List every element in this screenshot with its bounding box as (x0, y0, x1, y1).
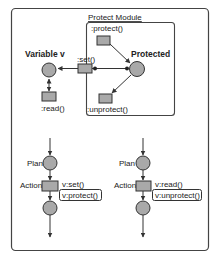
plan-label-left: Plan (27, 159, 43, 168)
variable-place (42, 63, 56, 77)
call-protect-label: v:protect() (62, 191, 98, 200)
read-transition (42, 92, 56, 101)
plan-place-left (43, 156, 57, 170)
protected-place (130, 62, 145, 77)
flow-right: Plan Action v:read() v:unprotect() (114, 138, 202, 237)
arc-end-dot-left (93, 67, 97, 71)
result-place-right (136, 201, 150, 215)
read-label: :read() (41, 104, 65, 113)
call-set-label: v:set() (62, 180, 85, 189)
diagram-canvas: Protect Module Variable v :read() :set()… (0, 0, 218, 261)
plan-place-right (136, 156, 150, 170)
protected-to-unprotect-arc (112, 75, 131, 93)
call-read-label: v:read() (155, 180, 183, 189)
action-transition-left (42, 181, 58, 191)
protect-to-protected-arc (110, 44, 130, 63)
protect-transition (97, 36, 110, 45)
variable-label: Variable v (25, 49, 65, 59)
protect-module-title: Protect Module (88, 13, 142, 22)
flow-left: Plan Action v:set() v:protect() (20, 138, 102, 237)
result-place-left (43, 201, 57, 215)
arc-end-dot-right (125, 67, 129, 71)
call-unprotect-label: v:unprotect() (155, 191, 200, 200)
protected-label: Protected (131, 49, 170, 59)
set-transition (78, 64, 92, 73)
unprotect-transition (99, 94, 112, 103)
action-transition-right (136, 181, 151, 191)
plan-label-right: Plan (119, 159, 135, 168)
protect-label: :protect() (91, 24, 123, 33)
set-label: :set() (77, 55, 96, 64)
action-label-right: Action (114, 181, 136, 190)
unprotect-label: :unprotect() (87, 105, 128, 114)
action-label-left: Action (20, 181, 42, 190)
